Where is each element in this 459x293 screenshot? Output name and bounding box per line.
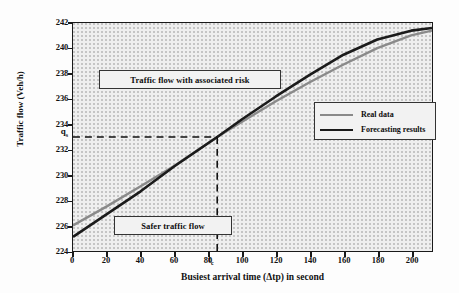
x-tick-100: 100 bbox=[227, 255, 257, 265]
t-c-axis-label: tc bbox=[208, 254, 214, 266]
x-tick-180: 180 bbox=[363, 255, 393, 265]
x-tick-120: 120 bbox=[261, 255, 291, 265]
x-tick-0: 0 bbox=[57, 255, 87, 265]
chart-figure: 242 240 238 236 234 232 230 228 226 224 … bbox=[0, 0, 459, 293]
x-tick-60: 60 bbox=[159, 255, 189, 265]
x-tick-160: 160 bbox=[329, 255, 359, 265]
x-axis-title: Busiest arrival time (Δtp) in second bbox=[72, 272, 433, 282]
x-tick-200: 200 bbox=[397, 255, 427, 265]
x-tick-20: 20 bbox=[91, 255, 121, 265]
x-axis-tick-labels: 0 20 40 60 80 100 120 140 160 180 200 bbox=[0, 0, 459, 293]
x-tick-140: 140 bbox=[295, 255, 325, 265]
x-tick-40: 40 bbox=[125, 255, 155, 265]
